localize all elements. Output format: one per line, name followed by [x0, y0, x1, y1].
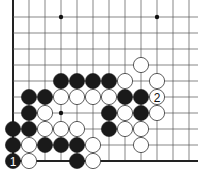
stone-icon	[85, 89, 100, 104]
white-stone	[21, 153, 36, 168]
stone-icon	[149, 73, 164, 88]
stone-icon	[5, 137, 20, 152]
stone-icon	[69, 153, 84, 168]
move-number-label: 1	[10, 155, 17, 169]
stone-icon	[117, 121, 132, 136]
stone-icon	[69, 89, 84, 104]
stone-icon	[101, 89, 116, 104]
black-stone	[21, 89, 36, 104]
go-board: 21	[0, 0, 206, 176]
white-stone	[69, 89, 84, 104]
stone-icon	[69, 121, 84, 136]
stone-icon	[133, 121, 148, 136]
white-stone	[149, 73, 164, 88]
stone-icon	[53, 137, 68, 152]
black-stone	[53, 73, 68, 88]
stone-icon	[117, 105, 132, 120]
black-stone	[21, 121, 36, 136]
black-stone	[69, 137, 84, 152]
stone-icon	[117, 73, 132, 88]
black-stone	[37, 89, 52, 104]
black-stone	[101, 105, 116, 120]
black-stone	[101, 73, 116, 88]
star-point-icon	[59, 111, 63, 115]
black-stone	[133, 105, 148, 120]
stone-icon	[133, 89, 148, 104]
stone-icon	[21, 153, 36, 168]
white-stone	[117, 73, 132, 88]
white-stone	[133, 137, 148, 152]
black-stone	[53, 137, 68, 152]
stone-icon	[133, 137, 148, 152]
white-stone	[101, 89, 116, 104]
white-stone	[117, 121, 132, 136]
white-stone	[133, 121, 148, 136]
white-stone: 2	[149, 89, 164, 104]
black-stone	[101, 121, 116, 136]
stone-icon	[149, 105, 164, 120]
stone-icon	[101, 105, 116, 120]
stone-icon	[21, 121, 36, 136]
stone-icon	[5, 121, 20, 136]
stone-icon	[53, 89, 68, 104]
move-number-label: 2	[154, 91, 161, 105]
white-stone	[53, 121, 68, 136]
stone-icon	[21, 137, 36, 152]
black-stone	[21, 105, 36, 120]
black-stone	[37, 137, 52, 152]
stone-icon	[69, 137, 84, 152]
stone-icon	[37, 121, 52, 136]
white-stone	[37, 121, 52, 136]
white-stone	[117, 105, 132, 120]
white-stone	[85, 89, 100, 104]
black-stone	[69, 153, 84, 168]
black-stone: 1	[5, 153, 20, 168]
white-stone	[133, 57, 148, 72]
star-point-icon	[155, 15, 159, 19]
black-stone	[69, 73, 84, 88]
black-stone	[133, 89, 148, 104]
black-stone	[5, 137, 20, 152]
stone-icon	[37, 89, 52, 104]
white-stone	[85, 153, 100, 168]
stone-icon	[53, 73, 68, 88]
stone-icon	[133, 57, 148, 72]
stone-icon	[85, 153, 100, 168]
stone-icon	[21, 89, 36, 104]
stone-icon	[53, 121, 68, 136]
stone-icon	[85, 73, 100, 88]
white-stone	[21, 137, 36, 152]
stone-icon	[21, 105, 36, 120]
stone-icon	[37, 105, 52, 120]
black-stone	[85, 73, 100, 88]
white-stone	[149, 105, 164, 120]
stone-icon	[85, 137, 100, 152]
stone-icon	[37, 137, 52, 152]
white-stone	[69, 121, 84, 136]
black-stone	[117, 89, 132, 104]
stone-icon	[101, 121, 116, 136]
white-stone	[37, 105, 52, 120]
white-stone	[53, 89, 68, 104]
stone-icon	[101, 73, 116, 88]
stone-icon	[69, 73, 84, 88]
white-stone	[85, 137, 100, 152]
black-stone	[5, 121, 20, 136]
stone-icon	[117, 89, 132, 104]
star-point-icon	[59, 15, 63, 19]
stone-icon	[133, 105, 148, 120]
